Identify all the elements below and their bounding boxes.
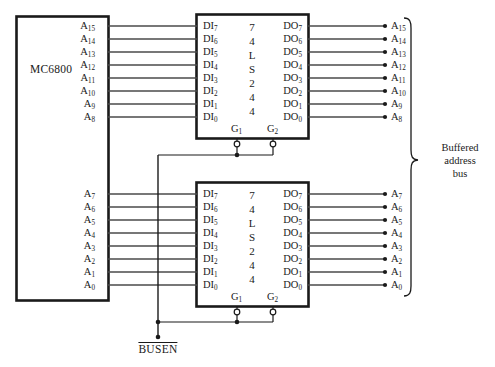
bus-line-a14: A14 [391, 34, 406, 45]
lower-part-char-6: 4 [244, 274, 260, 285]
cpu-pin-a9: A9 [84, 99, 95, 110]
cpu-pin-a15: A15 [80, 21, 95, 32]
cpu-pin-a13: A13 [80, 47, 95, 58]
lower-part-char-5: 4 [244, 260, 260, 271]
lower-input-di6: DI6 [203, 202, 218, 213]
upper-enable-g2-label: G2 [267, 124, 278, 135]
lower-output-do7: DO7 [283, 189, 302, 200]
cpu-pin-a12: A12 [80, 60, 95, 71]
lower-input-di1: DI1 [203, 267, 218, 278]
lower-input-di2: DI2 [203, 254, 218, 265]
lower-input-di5: DI5 [203, 215, 218, 226]
upper-output-do3: DO3 [283, 73, 302, 84]
lower-enable-g2-label: G2 [267, 292, 278, 303]
cpu-pin-a7: A7 [84, 189, 95, 200]
bus-line-a1: A1 [391, 267, 402, 278]
bus-line-a6: A6 [391, 202, 402, 213]
upper-input-di6: DI6 [203, 34, 218, 45]
cpu-pin-a11: A11 [80, 73, 95, 84]
upper-enable-pins [158, 138, 276, 155]
bus-line-a8: A8 [391, 112, 402, 123]
busen-label: BUSEN [138, 342, 177, 356]
lower-input-wires [108, 194, 197, 285]
lower-part-char-0: 7 [244, 190, 260, 201]
upper-part-char-5: 4 [244, 92, 260, 103]
bus-label-line-0: Buffered [424, 141, 495, 154]
lower-output-do5: DO5 [283, 215, 302, 226]
upper-part-char-3: S [244, 64, 260, 75]
cpu-pin-a14: A14 [80, 34, 95, 45]
lower-enable-g1-label: G1 [231, 292, 242, 303]
cpu-pin-a5: A5 [84, 215, 95, 226]
upper-output-wires [308, 26, 385, 117]
upper-part-char-2: L [244, 50, 260, 61]
upper-output-do5: DO5 [283, 47, 302, 58]
bus-line-a2: A2 [391, 254, 402, 265]
bus-label-line-1: address [424, 154, 495, 167]
upper-input-di1: DI1 [203, 99, 218, 110]
lower-enable-junction [235, 320, 240, 325]
upper-enable-junction [235, 153, 240, 158]
bus-line-a5: A5 [391, 215, 402, 226]
circuit-diagram: MC6800 A15 A14 A13 A12 A11 A10 A9 A8 A7 … [0, 0, 495, 367]
upper-part-char-1: 4 [244, 36, 260, 47]
upper-enable-g1-label: G1 [231, 124, 242, 135]
cpu-pin-a4: A4 [84, 228, 95, 239]
upper-input-di4: DI4 [203, 60, 218, 71]
cpu-pin-a8: A8 [84, 112, 95, 123]
upper-input-di2: DI2 [203, 86, 218, 97]
upper-part-char-0: 7 [244, 22, 260, 33]
bus-line-a15: A15 [391, 21, 406, 32]
upper-input-di0: DI0 [203, 112, 218, 123]
upper-part-char-4: 2 [244, 78, 260, 89]
bus-line-a12: A12 [391, 60, 406, 71]
cpu-pin-a3: A3 [84, 241, 95, 252]
lower-input-di4: DI4 [203, 228, 218, 239]
lower-part-char-2: L [244, 218, 260, 229]
lower-output-do0: DO0 [283, 280, 302, 291]
lower-output-terminals [383, 192, 387, 287]
upper-input-di3: DI3 [203, 73, 218, 84]
lower-part-char-4: 2 [244, 246, 260, 257]
lower-input-di3: DI3 [203, 241, 218, 252]
cpu-pin-a2: A2 [84, 254, 95, 265]
lower-output-do1: DO1 [283, 267, 302, 278]
upper-output-do1: DO1 [283, 99, 302, 110]
bus-line-a9: A9 [391, 99, 402, 110]
lower-input-di0: DI0 [203, 280, 218, 291]
upper-output-terminals [383, 24, 387, 119]
lower-part-char-3: S [244, 232, 260, 243]
bus-line-a13: A13 [391, 47, 406, 58]
lower-output-do6: DO6 [283, 202, 302, 213]
bus-line-a3: A3 [391, 241, 402, 252]
upper-output-do0: DO0 [283, 112, 302, 123]
upper-output-do2: DO2 [283, 86, 302, 97]
upper-output-do7: DO7 [283, 21, 302, 32]
cpu-pin-a1: A1 [84, 267, 95, 278]
bus-line-a7: A7 [391, 189, 402, 200]
upper-input-di5: DI5 [203, 47, 218, 58]
bus-brace [404, 18, 418, 296]
upper-input-di7: DI7 [203, 21, 218, 32]
lower-input-di7: DI7 [203, 189, 218, 200]
mc6800-label: MC6800 [30, 64, 72, 76]
busen-branch-junction [156, 320, 161, 325]
bus-line-a0: A0 [391, 280, 402, 291]
cpu-pin-a10: A10 [80, 86, 95, 97]
lower-output-wires [308, 194, 385, 285]
lower-output-do2: DO2 [283, 254, 302, 265]
upper-input-wires [108, 26, 197, 117]
busen-terminal-dot [156, 335, 161, 340]
upper-output-do6: DO6 [283, 34, 302, 45]
upper-part-char-6: 4 [244, 106, 260, 117]
lower-enable-pins [158, 306, 276, 322]
buffered-address-bus-label: Buffered address bus [424, 141, 495, 180]
bus-label-line-2: bus [424, 167, 495, 180]
cpu-pin-a6: A6 [84, 202, 95, 213]
lower-output-do4: DO4 [283, 228, 302, 239]
cpu-pin-a0: A0 [84, 280, 95, 291]
lower-output-do3: DO3 [283, 241, 302, 252]
upper-output-do4: DO4 [283, 60, 302, 71]
lower-part-char-1: 4 [244, 204, 260, 215]
bus-line-a11: A11 [391, 73, 406, 84]
